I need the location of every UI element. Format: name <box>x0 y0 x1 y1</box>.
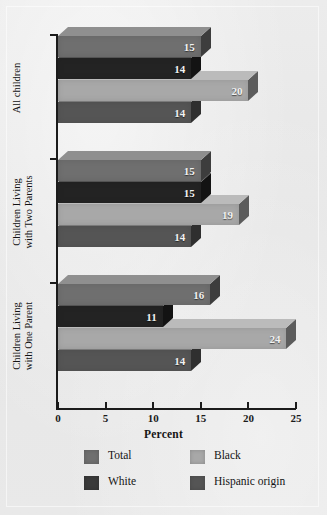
x-axis-tick-label: 10 <box>140 412 166 424</box>
y-axis-category-label: Children Living with One Parent <box>11 281 37 391</box>
bar: 19 <box>58 204 239 225</box>
bar: 14 <box>58 58 191 79</box>
bar-value-label: 15 <box>184 165 195 177</box>
bar-value-label: 20 <box>231 85 242 97</box>
x-axis-tick <box>152 402 154 409</box>
bar: 11 <box>58 306 163 327</box>
bar-front-face <box>58 182 201 203</box>
bar-value-label: 14 <box>174 231 185 243</box>
bar: 15 <box>58 182 201 203</box>
bar-top-face <box>58 275 220 284</box>
bar-value-label: 15 <box>184 187 195 199</box>
x-axis-tick <box>105 402 107 409</box>
x-axis-tick-label: 5 <box>93 412 119 424</box>
legend-label: Hispanic origin <box>214 475 285 487</box>
x-axis-tick <box>200 402 202 409</box>
bar: 16 <box>58 284 210 305</box>
bar: 15 <box>58 160 201 181</box>
bar-front-face <box>58 160 201 181</box>
legend-label: White <box>108 475 136 487</box>
legend: TotalBlackWhiteHispanic origin <box>84 449 299 495</box>
legend-swatch <box>84 476 99 490</box>
bar-front-face <box>58 328 286 349</box>
legend-swatch <box>190 450 205 464</box>
bar: 14 <box>58 102 191 123</box>
bar: 20 <box>58 80 248 101</box>
bar-front-face <box>58 284 210 305</box>
bar-front-face <box>58 226 191 247</box>
bar-front-face <box>58 102 191 123</box>
y-axis-category-label: Children Living with Two Parents <box>11 157 37 267</box>
legend-label: Black <box>214 449 241 461</box>
x-axis-tick <box>57 402 59 409</box>
figure-container: 0510152025PercentAll children15142014Chi… <box>0 0 327 515</box>
legend-label: Total <box>108 449 131 461</box>
x-axis-line <box>56 408 296 410</box>
bar-value-label: 14 <box>174 63 185 75</box>
x-axis-tick-label: 25 <box>283 412 309 424</box>
x-axis-tick <box>295 402 297 409</box>
y-axis-category-label: All children <box>11 33 37 143</box>
bar-front-face <box>58 204 239 225</box>
bar-front-face <box>58 36 201 57</box>
bar-top-face <box>58 151 211 160</box>
bar: 24 <box>58 328 286 349</box>
bar-front-face <box>58 58 191 79</box>
bar-top-face <box>58 27 211 36</box>
bar-value-label: 16 <box>193 289 204 301</box>
bar-value-label: 11 <box>146 311 156 323</box>
bar-value-label: 24 <box>269 333 280 345</box>
bar-value-label: 14 <box>174 355 185 367</box>
legend-swatch <box>84 450 99 464</box>
legend-swatch <box>190 476 205 490</box>
bar-value-label: 19 <box>222 209 233 221</box>
x-axis-tick-label: 20 <box>235 412 261 424</box>
bar-value-label: 15 <box>184 41 195 53</box>
x-axis-title: Percent <box>0 428 327 440</box>
bar: 14 <box>58 350 191 371</box>
y-axis-tick <box>50 34 57 36</box>
x-axis-tick-label: 0 <box>45 412 71 424</box>
y-axis-tick <box>50 158 57 160</box>
bar: 15 <box>58 36 201 57</box>
y-axis-tick <box>50 282 57 284</box>
bar-front-face <box>58 80 248 101</box>
bar: 14 <box>58 226 191 247</box>
bar-value-label: 14 <box>174 107 185 119</box>
x-axis-tick <box>247 402 249 409</box>
x-axis-tick-label: 15 <box>188 412 214 424</box>
plot-area: 0510152025PercentAll children15142014Chi… <box>0 0 327 515</box>
bar-front-face <box>58 350 191 371</box>
